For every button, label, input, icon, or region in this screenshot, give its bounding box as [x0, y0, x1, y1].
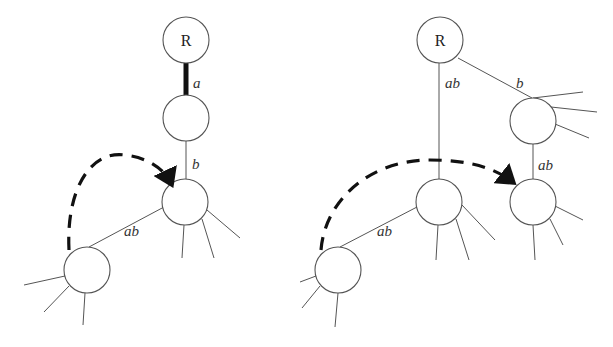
leaf-edge — [462, 205, 495, 240]
leaf-edge — [555, 206, 583, 220]
tree-node — [162, 179, 208, 225]
tree-node — [510, 98, 556, 144]
edge-label: b — [516, 75, 524, 91]
leaf-edge — [533, 92, 583, 98]
edge-label: ab — [377, 223, 393, 239]
leaf-edge — [44, 286, 69, 312]
leaf-edge — [202, 219, 214, 258]
tree-node — [510, 179, 556, 225]
dashed-arrow — [69, 155, 172, 250]
root-label: R — [435, 32, 446, 49]
left-tree: R a b ab — [24, 17, 240, 325]
edge-label: a — [193, 75, 201, 91]
tree-node — [315, 247, 361, 293]
tree-node — [163, 95, 209, 141]
leaf-edge — [533, 225, 535, 260]
leaf-edge — [300, 276, 316, 282]
leaf-edge — [207, 210, 240, 238]
edge-label: ab — [445, 75, 461, 91]
edge-label: ab — [124, 223, 140, 239]
edge-label: b — [192, 156, 200, 172]
tree-node — [416, 179, 462, 225]
leaf-edge — [83, 293, 85, 325]
root-label: R — [181, 32, 192, 49]
leaf-edge — [335, 293, 338, 327]
diagram-canvas: R a b ab R ab b — [0, 0, 613, 347]
leaf-edge — [182, 225, 184, 258]
leaf-edge — [24, 276, 65, 285]
edge-label: ab — [538, 157, 554, 173]
leaf-edge — [436, 225, 438, 260]
leaf-edge — [302, 286, 320, 308]
tree-node — [64, 247, 110, 293]
leaf-edge — [456, 219, 469, 260]
leaf-edge — [555, 124, 589, 138]
leaf-edge — [551, 107, 597, 112]
leaf-edge — [550, 219, 563, 245]
right-tree: R ab b ab ab — [300, 17, 597, 327]
